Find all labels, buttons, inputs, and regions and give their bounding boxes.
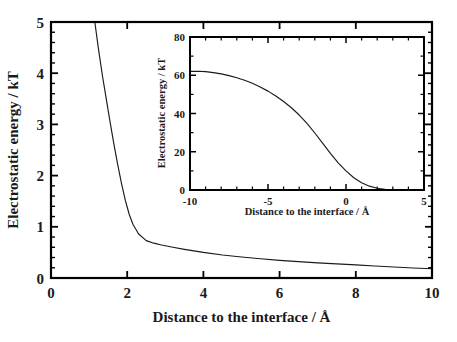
inset-x-axis-title: Distance to the interface / Å (245, 206, 370, 217)
inset-x-tick-label: 5 (421, 195, 427, 207)
main-y-tick-label: 4 (37, 66, 45, 82)
main-y-tick-label: 0 (37, 271, 45, 287)
inset-background (190, 37, 424, 190)
figure-caption-partial (34, 330, 434, 341)
main-x-tick-label: 8 (352, 285, 360, 301)
chart-canvas: 0246810 012345 Distance to the interface… (0, 0, 457, 342)
inset-y-tick-label: 60 (174, 69, 186, 81)
inset-plot: -10-505 020406080 Distance to the interf… (156, 31, 427, 217)
inset-x-tick-label: -10 (183, 195, 198, 207)
inset-y-tick-label: 80 (174, 31, 186, 43)
main-y-tick-label: 3 (37, 117, 45, 133)
main-y-tick-label: 2 (37, 168, 45, 184)
inset-y-tick-label: 0 (180, 184, 186, 196)
main-x-tick-label: 4 (200, 285, 208, 301)
figure-container: 0246810 012345 Distance to the interface… (0, 0, 457, 342)
inset-y-axis-title: Electrostatic energy / kT (156, 58, 167, 168)
inset-y-tick-label: 20 (174, 146, 186, 158)
main-x-axis-title: Distance to the interface / Å (153, 309, 331, 325)
main-y-tick-label: 5 (37, 15, 45, 31)
inset-y-tick-label: 40 (174, 108, 186, 120)
main-y-tick-label: 1 (37, 219, 45, 235)
main-x-tick-label: 0 (47, 285, 55, 301)
main-x-tick-label: 6 (276, 285, 284, 301)
main-x-tick-label: 2 (123, 285, 131, 301)
main-x-tick-label: 10 (425, 285, 440, 301)
main-y-axis-title: Electrostatic energy / kT (5, 71, 21, 229)
